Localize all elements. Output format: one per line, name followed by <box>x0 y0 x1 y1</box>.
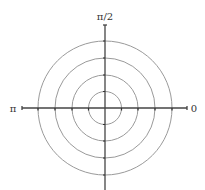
polar-grid-diagram: π/2 π 0 <box>0 0 205 190</box>
label-zero: 0 <box>191 103 197 114</box>
label-pi: π <box>10 103 17 114</box>
axes <box>22 25 187 190</box>
label-pi-over-2: π/2 <box>97 11 113 22</box>
